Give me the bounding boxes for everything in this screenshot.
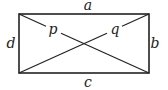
label-q: q xyxy=(111,21,120,37)
label-a: a xyxy=(84,0,92,13)
diagonal-q-segment-2 xyxy=(122,14,149,26)
label-d: d xyxy=(7,35,16,51)
label-p: p xyxy=(49,21,58,37)
diagonal-p-segment-2 xyxy=(61,33,149,73)
diagonal-p-segment-1 xyxy=(19,14,46,26)
label-c: c xyxy=(84,74,92,90)
diagonal-q-segment-1 xyxy=(19,33,107,73)
label-b: b xyxy=(151,35,160,51)
rectangle-diagram: a b c d p q xyxy=(0,0,168,90)
